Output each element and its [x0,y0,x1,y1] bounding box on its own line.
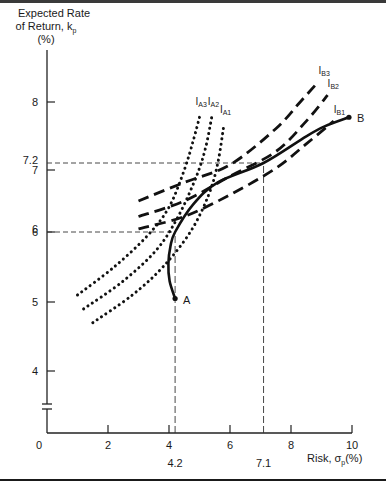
axes [42,50,352,433]
x-tick-label: 8 [288,439,294,451]
efficient-frontier-curve [168,117,349,298]
curve-label-a1: IA1 [220,104,231,116]
x-tick-label: 2 [105,439,111,451]
curve-label-b1: IB1 [334,104,345,116]
indifference-curve-b2 [139,95,328,216]
indifference-curve-b3 [139,82,319,201]
point-b [346,115,351,120]
reference-label: 6 [32,223,38,235]
curves [78,82,352,323]
y-axis-title-line3: (%) [37,33,54,45]
y-tick-label: 4 [32,365,38,377]
y-axis-title-line1: Expected Rate [18,7,90,19]
point-label-b: B [357,112,364,124]
curve-label-b3: IB3 [318,65,329,77]
reference-label: 7.2 [23,154,38,166]
y-tick-label: 8 [32,96,38,108]
origin-label: 0 [36,439,42,451]
reference-lines [47,163,264,433]
point-a [173,296,178,301]
point-label-a: A [183,294,191,306]
bottom-border [0,479,386,481]
labels: 0246810456787.264.27.1IA1IA2IA3IB1IB2IB3… [23,65,365,469]
curve-label-b2: IB2 [328,78,339,90]
x-axis-title: Risk, σp(%) [307,452,362,467]
y-tick-label: 5 [32,296,38,308]
x-tick-label: 6 [227,439,233,451]
curve-label-a3: IA3 [196,96,207,108]
x-tick-label: 10 [346,439,358,451]
indifference-curve-chart: Expected Rate of Return, kp (%) 02468104… [0,0,386,492]
reference-label: 4.2 [167,457,182,469]
reference-label: 7.1 [256,457,271,469]
x-tick-label: 4 [166,439,172,451]
curve-label-a2: IA2 [208,96,219,108]
